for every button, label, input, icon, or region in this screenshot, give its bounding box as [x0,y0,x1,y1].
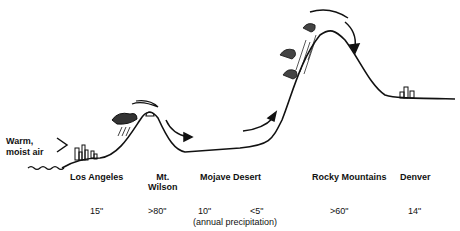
terrain-profile-diagram [0,0,460,231]
incoming-air-arrow-icon [57,138,67,152]
mt-wilson-line1: Mt. [148,172,177,182]
mt-wilson-line2: Wilson [148,182,177,192]
location-label-mt-wilson: Mt. Wilson [148,172,177,192]
location-label-los-angeles: Los Angeles [70,172,123,182]
los-angeles-city-icon [75,145,97,160]
incoming-air-line1: Warm, [6,136,44,147]
ocean-waves [28,167,64,170]
mt-wilson-storm-cloud-icon [112,101,158,136]
location-label-rocky-mountains: Rocky Mountains [312,172,387,182]
precip-mojave-b: <5" [250,206,263,216]
precip-los-angeles: 15" [90,206,103,216]
terrain-profile [62,31,455,168]
location-label-mojave-desert: Mojave Desert [200,172,261,182]
precip-mt-wilson: >80" [148,206,166,216]
rain-hatching [296,35,316,74]
precip-mojave-a: 10" [198,206,211,216]
upslope-arrow-icon [243,112,276,131]
incoming-air-label: Warm, moist air [6,136,44,158]
location-label-denver: Denver [400,172,431,182]
precip-rocky-mountains: >60" [330,206,348,216]
precip-denver: 14" [408,206,421,216]
annual-precipitation-note: (annual precipitation) [193,217,277,227]
downslope-arrow-icon [166,120,192,141]
denver-city-icon [400,87,414,98]
incoming-air-line2: moist air [6,147,44,158]
